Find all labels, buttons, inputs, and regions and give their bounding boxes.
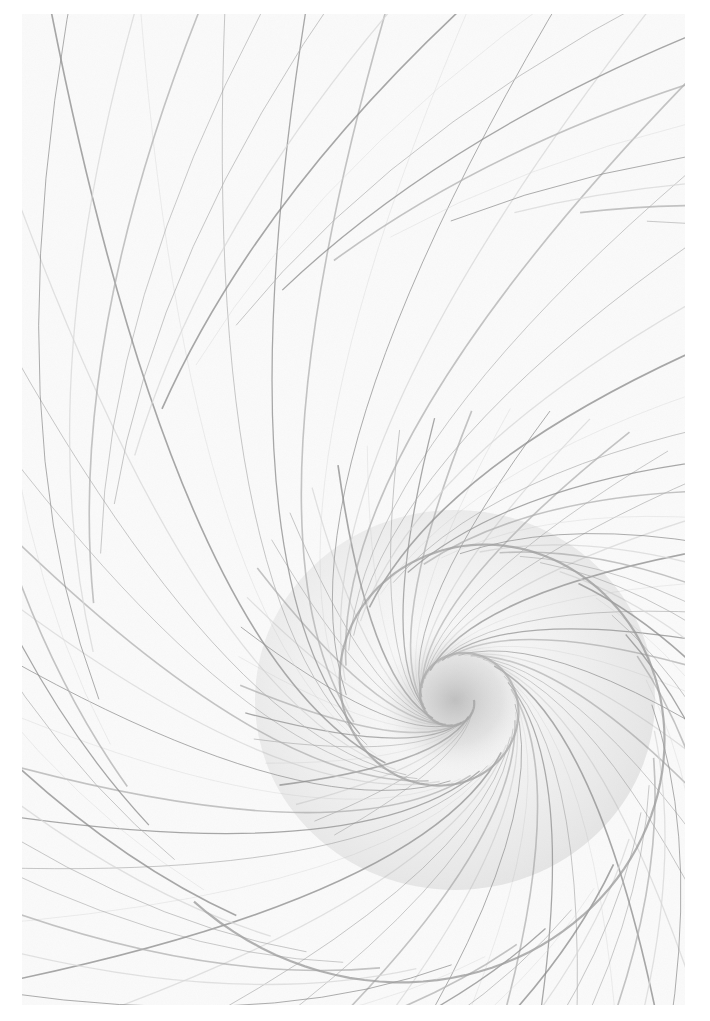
nautilus-spiral-drawing — [22, 14, 685, 1005]
artwork-frame — [22, 14, 685, 1005]
